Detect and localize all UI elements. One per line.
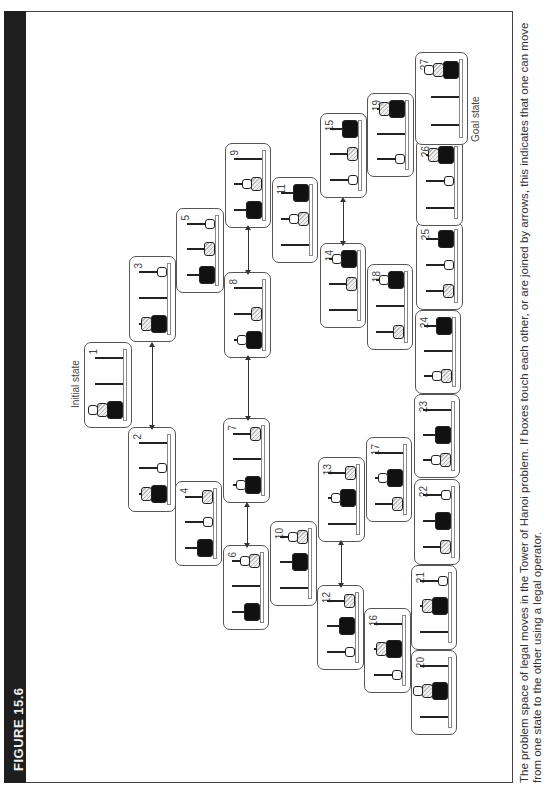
medium-disk <box>347 148 358 162</box>
initial-state-label: Initial state <box>70 360 81 408</box>
large-disk <box>386 641 402 659</box>
peg-base <box>123 349 127 421</box>
large-disk <box>432 683 448 701</box>
large-disk <box>342 120 358 138</box>
large-disk <box>438 146 454 164</box>
small-disk <box>444 177 454 187</box>
peg-c <box>423 409 451 411</box>
large-disk <box>443 61 459 79</box>
small-disk <box>203 518 213 528</box>
state-number: 2 <box>132 434 143 440</box>
state-box-2: 2 <box>128 427 176 512</box>
figure-stage: FIGURE 15.6 1234567891011121314151617181… <box>0 0 554 790</box>
peg-c <box>95 357 123 359</box>
large-disk <box>388 271 404 289</box>
peg-c <box>420 665 448 667</box>
large-disk <box>293 184 309 202</box>
medium-disk <box>250 427 261 441</box>
state-number: 9 <box>229 150 240 156</box>
state-box-6: 6 <box>223 545 269 630</box>
state-box-7: 7 <box>223 418 270 503</box>
medium-disk <box>141 317 152 331</box>
state-number: 5 <box>180 215 191 221</box>
peg-a <box>426 207 454 209</box>
peg-b <box>431 97 459 99</box>
peg-base <box>454 146 458 219</box>
small-disk <box>288 532 298 542</box>
medium-disk <box>440 453 451 467</box>
medium-disk <box>97 403 108 417</box>
medium-disk <box>376 643 387 657</box>
peg-a <box>420 716 448 718</box>
state-box-20: 20 <box>411 650 457 735</box>
small-disk <box>236 480 246 490</box>
state-box-12: 12 <box>317 585 364 670</box>
state-box-21: 21 <box>411 565 457 650</box>
state-box-8: 8 <box>224 272 271 358</box>
peg-base <box>451 486 455 558</box>
medium-disk <box>141 487 152 501</box>
peg-c <box>234 158 262 160</box>
state-box-5: 5 <box>176 208 224 293</box>
state-box-10: 10 <box>270 521 317 606</box>
large-disk <box>246 331 262 349</box>
small-disk <box>240 556 250 566</box>
peg-base <box>357 250 361 321</box>
large-disk <box>244 603 260 621</box>
peg-b <box>233 459 261 461</box>
medium-disk <box>422 600 433 614</box>
move-arrow-2-3 <box>152 345 153 427</box>
small-disk <box>332 254 342 264</box>
medium-disk <box>345 466 356 480</box>
peg-base <box>215 215 219 286</box>
state-box-15: 15 <box>320 113 367 198</box>
medium-disk <box>392 497 403 511</box>
peg-base <box>402 615 406 686</box>
small-disk <box>413 687 423 697</box>
state-box-19: 19 <box>367 93 414 177</box>
small-disk <box>331 494 341 504</box>
medium-disk <box>393 325 404 339</box>
large-disk <box>245 476 261 494</box>
peg-a <box>328 523 356 525</box>
medium-disk <box>443 284 454 298</box>
state-box-27: 27 <box>415 52 468 145</box>
medium-disk <box>346 278 357 292</box>
large-disk <box>107 401 123 419</box>
peg-b <box>232 586 260 588</box>
state-box-4: 4 <box>175 481 222 566</box>
peg-c <box>234 287 262 289</box>
small-disk <box>157 267 167 277</box>
medium-disk <box>251 307 262 321</box>
peg-b <box>424 350 452 352</box>
state-box-13: 13 <box>318 457 365 542</box>
state-box-17: 17 <box>366 437 412 522</box>
state-box-14: 14 <box>320 243 366 328</box>
small-disk <box>395 154 405 164</box>
figure-title-band: FIGURE 15.6 <box>4 11 26 783</box>
small-disk <box>378 474 388 484</box>
peg-c <box>139 442 167 444</box>
peg-a <box>431 124 459 126</box>
peg-base <box>452 317 456 387</box>
peg-base <box>260 552 264 623</box>
state-box-23: 23 <box>414 394 460 478</box>
medium-disk <box>344 594 355 608</box>
peg-base <box>309 184 313 256</box>
medium-disk <box>297 530 308 544</box>
state-number: 8 <box>228 279 239 285</box>
small-disk <box>242 180 252 190</box>
peg-base <box>448 572 452 643</box>
peg-b <box>95 383 123 385</box>
move-arrow-6-7 <box>247 505 248 545</box>
small-disk <box>379 275 389 285</box>
peg-base <box>356 464 360 535</box>
move-arrow-14-15 <box>343 200 344 243</box>
peg-base <box>358 120 362 191</box>
peg-a <box>420 631 448 633</box>
peg-base <box>404 271 408 343</box>
medium-disk <box>428 148 439 162</box>
peg-c <box>374 623 402 625</box>
move-arrow-12-13 <box>341 543 342 585</box>
peg-base <box>213 488 217 559</box>
